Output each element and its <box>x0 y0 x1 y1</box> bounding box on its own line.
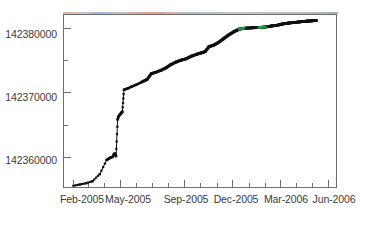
series-marker <box>100 170 102 172</box>
series-marker <box>83 183 85 185</box>
y-tick-label-142360000: 142360000 <box>0 154 57 166</box>
series-marker <box>123 93 125 95</box>
series-marker <box>122 106 124 108</box>
series-marker <box>115 155 117 157</box>
series-marker <box>116 126 118 128</box>
series-marker <box>122 102 124 104</box>
series-marker <box>79 183 81 185</box>
highlight-segment <box>239 28 244 29</box>
series-line-cumulative-count <box>73 20 316 185</box>
series-marker <box>99 173 101 175</box>
y-tick-label-142380000: 142380000 <box>0 28 57 40</box>
series-marker <box>72 185 74 187</box>
x-tick-label-mar-2006: Mar-2006 <box>264 193 308 205</box>
series-markers <box>72 19 317 187</box>
x-tick-label-jun-2006: Jun-2006 <box>313 193 356 205</box>
series-marker <box>104 162 106 164</box>
series-marker <box>115 148 117 150</box>
series-marker <box>87 181 89 183</box>
series-marker <box>85 182 87 184</box>
x-tick-label-feb-2005: Feb-2005 <box>60 193 104 205</box>
y-tick-label-142370000: 142370000 <box>0 91 57 103</box>
highlight-segment <box>259 27 266 28</box>
series-marker <box>102 166 104 168</box>
series-marker <box>116 133 118 135</box>
series-marker <box>315 19 318 22</box>
series-marker <box>89 181 91 183</box>
series-marker <box>121 111 123 113</box>
data-series-layer <box>64 15 338 189</box>
x-tick-label-dec-2005: Dec-2005 <box>214 193 259 205</box>
plot-area <box>63 14 337 188</box>
series-marker <box>122 97 124 99</box>
x-tick-label-sep-2005: Sep-2005 <box>164 193 209 205</box>
series-marker <box>116 140 118 142</box>
x-tick-label-may-2005: May-2005 <box>105 193 151 205</box>
series-marker <box>74 184 76 186</box>
series-marker <box>77 184 79 186</box>
series-marker <box>81 183 83 185</box>
chart-figure: 142380000 142370000 142360000 Feb-2005 M… <box>0 0 366 225</box>
